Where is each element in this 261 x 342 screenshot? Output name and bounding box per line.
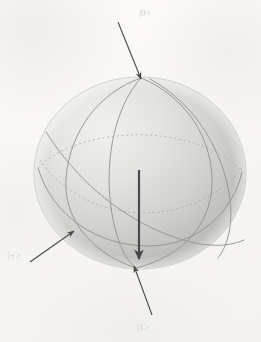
- arrow-to-plus: [30, 231, 74, 262]
- arrow-to-zero: [118, 22, 141, 79]
- label-ket-zero: |0>: [139, 8, 151, 18]
- label-ket-plus: |+>: [8, 250, 21, 260]
- label-ket-one: |1>: [137, 322, 149, 332]
- bloch-sphere-figure: |0> |1> |+>: [0, 0, 261, 342]
- arrow-to-one: [134, 266, 152, 315]
- bloch-sphere-canvas: [0, 0, 261, 342]
